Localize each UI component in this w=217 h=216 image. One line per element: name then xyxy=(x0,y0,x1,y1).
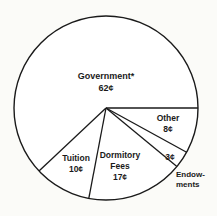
slice-label-dormitory-1: Dormitory xyxy=(100,150,141,160)
slice-label-government: Government* xyxy=(78,71,135,81)
pie-chart: Government* 62¢ Other 8¢ 3¢ Endow- ments… xyxy=(0,0,217,216)
slice-label-tuition: Tuition xyxy=(62,153,90,163)
slice-label-other: Other xyxy=(157,113,180,123)
slice-value-other: 8¢ xyxy=(163,124,173,134)
slice-value-endowments: 3¢ xyxy=(165,152,175,162)
slice-label-endowments-2: ments xyxy=(176,180,200,189)
slice-value-tuition: 10¢ xyxy=(69,164,83,174)
slice-label-endowments-1: Endow- xyxy=(176,170,205,179)
slice-label-dormitory-2: Fees xyxy=(110,161,130,171)
slice-value-dormitory: 17¢ xyxy=(113,172,127,182)
slice-value-government: 62¢ xyxy=(98,83,113,93)
